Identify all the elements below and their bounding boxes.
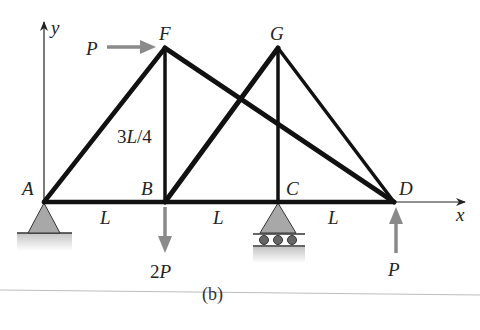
- truss-members: [44, 48, 394, 202]
- arrow-down-icon: [158, 236, 172, 253]
- node-label-A: A: [20, 178, 34, 199]
- arrow-right-icon: [140, 40, 156, 54]
- member-BG: [165, 48, 278, 202]
- load-D-vertical: P: [387, 207, 403, 280]
- roller-wheel: [274, 236, 283, 245]
- x-axis-label: x: [455, 204, 465, 225]
- roller-wheel: [260, 236, 269, 245]
- caption-divider: [0, 290, 480, 295]
- figure-caption: (b): [202, 284, 223, 305]
- span-label-AB: L: [99, 207, 111, 228]
- span-label-CD: L: [327, 207, 339, 228]
- node-label-F: F: [158, 23, 171, 44]
- roller-wheel: [288, 236, 297, 245]
- load-label-F: P: [85, 38, 98, 59]
- truss-diagram: y x A B C D F G 3L/: [0, 0, 480, 330]
- ground-hatch: [17, 233, 72, 251]
- load-label-D: P: [387, 259, 400, 280]
- roller-triangle: [260, 203, 296, 233]
- span-label-BC: L: [212, 207, 224, 228]
- arrow-up-icon: [389, 207, 403, 224]
- pin-triangle: [28, 203, 60, 233]
- ground-hatch: [253, 247, 305, 263]
- node-label-D: D: [398, 178, 413, 199]
- node-label-C: C: [286, 178, 299, 199]
- load-label-B: 2P: [150, 261, 172, 282]
- pin-support-A: [17, 203, 72, 251]
- y-axis-label: y: [49, 17, 60, 38]
- node-label-G: G: [270, 23, 284, 44]
- node-label-B: B: [141, 178, 153, 199]
- height-dimension: 3L/4: [117, 126, 152, 147]
- roller-support-C: [253, 203, 305, 263]
- load-B-vertical: 2P: [150, 207, 172, 282]
- load-F-horizontal: P: [85, 38, 156, 59]
- loads: P 2P P: [85, 38, 403, 282]
